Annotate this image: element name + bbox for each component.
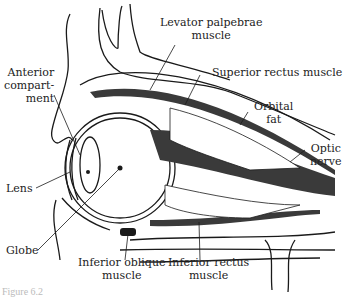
label-superior-rectus: Superior rectus muscle bbox=[212, 66, 342, 79]
orbit-diagram: Levator palpebraemuscle Anteriorcompart-… bbox=[0, 0, 349, 298]
label-inferior-rectus: Inferior rectusmuscle bbox=[168, 256, 249, 282]
label-anterior-compartment: Anteriorcompart-ment bbox=[4, 66, 54, 105]
label-optic-nerve: Opticnerve bbox=[310, 142, 342, 168]
face-profile bbox=[52, 14, 72, 143]
lens-shape bbox=[80, 137, 100, 193]
orbit-illustration bbox=[0, 0, 349, 298]
label-lens: Lens bbox=[6, 182, 33, 195]
label-globe: Globe bbox=[6, 244, 38, 257]
label-inferior-oblique: Inferior obliquemuscle bbox=[78, 256, 166, 282]
figure-caption: Figure 6.2 bbox=[2, 286, 43, 297]
label-orbital-fat: Orbitalfat bbox=[254, 100, 293, 126]
label-levator-palpebrae: Levator palpebraemuscle bbox=[160, 16, 262, 42]
